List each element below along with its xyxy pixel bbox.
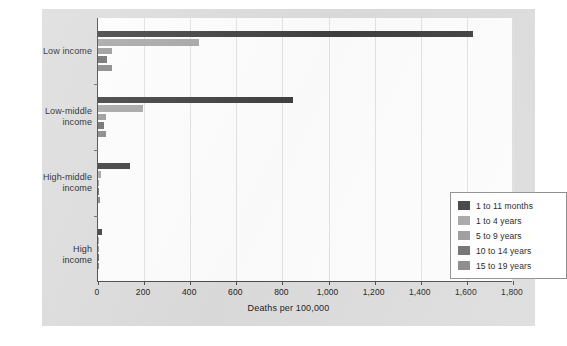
x-axis-tick [421, 281, 422, 285]
legend-swatch-icon [458, 231, 470, 240]
x-axis-tick-label: 1,000 [317, 287, 339, 297]
chart-legend: 1 to 11 months1 to 4 years5 to 9 years10… [450, 192, 567, 279]
y-axis-tick [94, 216, 98, 217]
bar [98, 39, 199, 46]
plot-area: 1 to 11 months1 to 4 years5 to 9 years10… [97, 18, 512, 282]
y-axis-category-label: Low income [43, 46, 92, 57]
x-axis-tick-label: 200 [136, 287, 150, 297]
x-axis-tick-label: 400 [182, 287, 196, 297]
gridline [236, 18, 237, 281]
legend-item: 10 to 14 years [458, 243, 560, 258]
y-axis-category-label: Low-middle income [45, 106, 92, 128]
legend-swatch-icon [458, 261, 470, 270]
bar [98, 48, 112, 55]
x-axis-tick-label: 800 [274, 287, 288, 297]
bar [98, 131, 106, 138]
x-axis-tick [329, 281, 330, 285]
bar [98, 229, 102, 236]
bar [98, 65, 112, 72]
bar [98, 105, 143, 112]
gridline [190, 18, 191, 281]
legend-item: 1 to 4 years [458, 213, 560, 228]
bar [98, 263, 99, 270]
gridline [282, 18, 283, 281]
bar [98, 180, 99, 187]
y-axis-category-labels: Low incomeLow-middle incomeHigh-middle i… [42, 18, 92, 282]
x-axis-tick-label: 1,400 [409, 287, 431, 297]
legend-item-label: 1 to 11 months [476, 201, 533, 211]
x-axis-tick-label: 1,600 [455, 287, 477, 297]
bar [98, 237, 99, 244]
y-axis-tick [94, 84, 98, 85]
legend-swatch-icon [458, 246, 470, 255]
bar [98, 163, 130, 170]
legend-item: 15 to 19 years [458, 258, 560, 273]
legend-item-label: 15 to 19 years [476, 261, 531, 271]
bar [98, 246, 99, 253]
x-axis-tick [144, 281, 145, 285]
x-axis-tick [513, 281, 514, 285]
x-axis-tick [190, 281, 191, 285]
x-axis-tick-labels: 02004006008001,0001,2001,4001,6001,800 [97, 287, 512, 299]
bar [98, 197, 100, 204]
bar [98, 31, 473, 38]
x-axis-tick [467, 281, 468, 285]
legend-swatch-icon [458, 201, 470, 210]
gridline [329, 18, 330, 281]
x-axis-tick-label: 0 [95, 287, 100, 297]
legend-item: 5 to 9 years [458, 228, 560, 243]
x-axis-tick-label: 1,800 [501, 287, 523, 297]
y-axis-category-label: High-middle income [43, 172, 92, 194]
legend-item-label: 1 to 4 years [476, 216, 522, 226]
legend-item-label: 5 to 9 years [476, 231, 522, 241]
bar [98, 114, 106, 121]
bar [98, 56, 107, 63]
legend-item: 1 to 11 months [458, 198, 560, 213]
x-axis-tick-label: 600 [228, 287, 242, 297]
x-axis-title: Deaths per 100,000 [42, 303, 535, 313]
figure-panel: Low incomeLow-middle incomeHigh-middle i… [42, 9, 535, 326]
bar [98, 254, 99, 261]
y-axis-category-label: High income [42, 244, 92, 266]
bar [98, 97, 293, 104]
gridline [144, 18, 145, 281]
legend-item-label: 10 to 14 years [476, 246, 531, 256]
x-axis-tick-label: 1,200 [363, 287, 385, 297]
x-axis-tick [282, 281, 283, 285]
bar [98, 188, 99, 195]
y-axis-tick [94, 150, 98, 151]
bar [98, 122, 104, 129]
bar [98, 171, 101, 178]
gridline [375, 18, 376, 281]
x-axis-tick [236, 281, 237, 285]
gridline [421, 18, 422, 281]
x-axis-tick [375, 281, 376, 285]
legend-swatch-icon [458, 216, 470, 225]
x-axis-tick [98, 281, 99, 285]
